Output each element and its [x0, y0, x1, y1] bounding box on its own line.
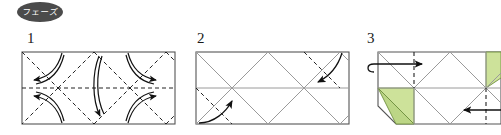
origami-step-1-figure — [0, 44, 190, 135]
phase-badge: フェーズ — [17, 2, 63, 22]
origami-step-3-figure — [360, 44, 501, 135]
origami-step-2-figure — [190, 44, 360, 135]
diagram-page: フェーズ 1 2 3 — [0, 0, 501, 135]
phase-badge-label: フェーズ — [22, 8, 59, 17]
